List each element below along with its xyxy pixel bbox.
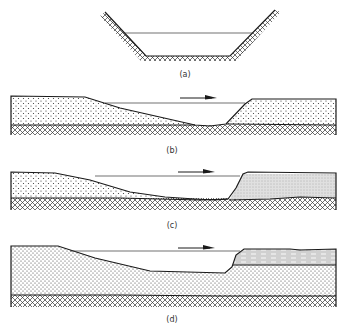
panel-a: (a) [100,10,281,79]
figure-diagram: (a) (b) (c) [0,0,346,335]
panel-label-d: (d) [166,315,177,324]
panel-c: (c) [11,169,336,230]
clay-layer [233,249,336,265]
flow-arrow-icon [180,95,217,100]
panel-label-a: (a) [179,70,190,79]
flow-arrow-icon [178,245,215,250]
sediment-upstream [11,96,195,125]
flow-arrow-icon [178,169,215,174]
panel-b: (b) [11,95,336,155]
fine-deposit-downstream [230,174,336,200]
bedrock [11,125,336,135]
panel-d: (d) [11,245,336,324]
cropped-caption [0,330,346,335]
panel-label-b: (b) [166,146,177,155]
bedrock [11,295,336,307]
panel-label-c: (c) [167,221,178,230]
